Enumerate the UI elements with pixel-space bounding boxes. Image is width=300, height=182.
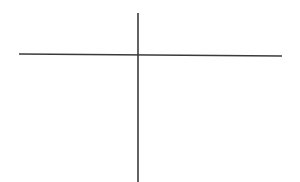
diagram-canvas bbox=[0, 0, 300, 182]
crossing-lines-diagram bbox=[0, 0, 300, 182]
horizontal-axis-line bbox=[19, 54, 282, 56]
